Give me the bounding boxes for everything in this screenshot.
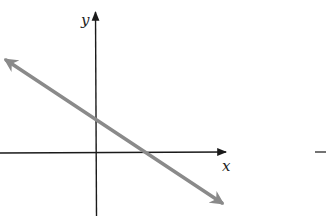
x-axis [0, 152, 226, 153]
y-axis-label: y [80, 11, 90, 29]
y-axis [96, 12, 97, 216]
coordinate-plane: y x [0, 0, 326, 216]
x-axis-label: x [222, 157, 231, 175]
plotted-line [6, 60, 222, 203]
